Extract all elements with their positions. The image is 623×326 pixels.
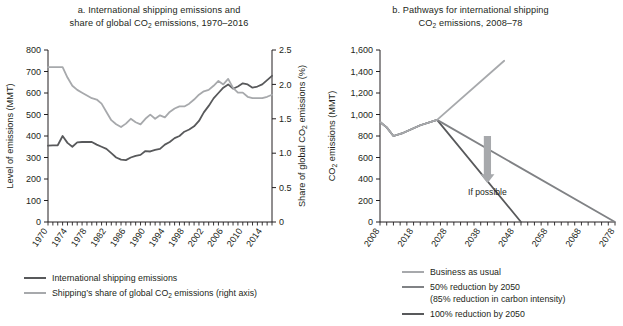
if-possible-arrow-icon [480, 136, 494, 183]
svg-text:400: 400 [26, 131, 41, 141]
legend-item-100-reduction: 100% reduction by 2050 [402, 308, 622, 321]
svg-text:2002: 2002 [186, 226, 206, 248]
svg-text:2028: 2028 [429, 226, 449, 248]
panel-b-plot: 02004006008001,0001,2001,4001,6002008201… [318, 0, 623, 270]
legend-label-100-reduction: 100% reduction by 2050 [430, 308, 525, 321]
svg-text:1.5: 1.5 [279, 114, 292, 124]
svg-text:2010: 2010 [225, 226, 245, 248]
svg-text:600: 600 [26, 88, 41, 98]
legend-swatch-50 [402, 286, 424, 288]
legend-item-intl-shipping-emissions: International shipping emissions [24, 272, 314, 285]
svg-text:2.0: 2.0 [279, 80, 292, 90]
legend-swatch-100 [402, 313, 424, 315]
panel-a-legend: International shipping emissions Shippin… [24, 272, 314, 303]
legend-item-business-as-usual: Business as usual [402, 266, 622, 279]
svg-text:1970: 1970 [30, 226, 50, 248]
svg-text:1,600: 1,600 [350, 45, 373, 55]
svg-text:300: 300 [26, 153, 41, 163]
svg-text:1998: 1998 [166, 226, 186, 248]
panel-b-legend: Business as usual 50% reduction by 2050(… [402, 266, 622, 323]
svg-text:800: 800 [26, 45, 41, 55]
if-possible-label: If possible [468, 187, 507, 197]
legend-label-intl-shipping-emissions: International shipping emissions [52, 272, 177, 285]
svg-text:400: 400 [358, 174, 373, 184]
svg-text:1994: 1994 [147, 226, 167, 248]
svg-text:2068: 2068 [563, 226, 583, 248]
svg-text:0: 0 [368, 217, 373, 227]
panel-b: b. Pathways for international shipping C… [318, 0, 623, 326]
svg-text:Level of emissions (MMT): Level of emissions (MMT) [5, 83, 15, 188]
legend-swatch-bau [402, 271, 424, 273]
svg-text:800: 800 [358, 131, 373, 141]
svg-text:1,400: 1,400 [350, 67, 373, 77]
svg-text:1986: 1986 [108, 226, 128, 248]
svg-text:0: 0 [36, 217, 41, 227]
svg-text:1.0: 1.0 [279, 148, 292, 158]
panel-a: a. International shipping emissions and … [0, 0, 318, 326]
svg-text:0: 0 [279, 217, 284, 227]
svg-text:2014: 2014 [244, 226, 264, 248]
figure-container: a. International shipping emissions and … [0, 0, 623, 326]
svg-text:200: 200 [26, 174, 41, 184]
svg-text:1990: 1990 [127, 226, 147, 248]
legend-label-shipping-share: Shipping’s share of global CO2 emissions… [52, 287, 257, 301]
svg-text:2006: 2006 [205, 226, 225, 248]
legend-swatch-light [24, 292, 46, 294]
svg-text:0.5: 0.5 [279, 183, 292, 193]
svg-text:2038: 2038 [463, 226, 483, 248]
panel-a-plot: 010020030040050060070080000.51.01.52.02.… [0, 0, 318, 270]
svg-text:700: 700 [26, 67, 41, 77]
svg-text:1978: 1978 [69, 226, 89, 248]
legend-item-50-reduction: 50% reduction by 2050(85% reduction in c… [402, 281, 622, 306]
svg-text:1982: 1982 [88, 226, 108, 248]
svg-text:CO2 emissions (MMT): CO2 emissions (MMT) [327, 91, 338, 182]
svg-text:2078: 2078 [597, 226, 617, 248]
svg-text:100: 100 [26, 196, 41, 206]
svg-text:2008: 2008 [362, 226, 382, 248]
svg-text:1974: 1974 [49, 226, 69, 248]
svg-text:200: 200 [358, 196, 373, 206]
svg-text:1,000: 1,000 [350, 110, 373, 120]
legend-label-50-reduction: 50% reduction by 2050(85% reduction in c… [430, 281, 565, 306]
svg-text:500: 500 [26, 110, 41, 120]
svg-text:2048: 2048 [496, 226, 516, 248]
svg-text:Share of global CO2 emissions: Share of global CO2 emissions (%) [297, 65, 308, 207]
svg-text:2018: 2018 [396, 226, 416, 248]
legend-item-shipping-share: Shipping’s share of global CO2 emissions… [24, 287, 314, 301]
legend-label-business-as-usual: Business as usual [430, 266, 501, 279]
svg-text:1,200: 1,200 [350, 88, 373, 98]
svg-text:600: 600 [358, 153, 373, 163]
svg-text:2058: 2058 [530, 226, 550, 248]
svg-text:2.5: 2.5 [279, 45, 292, 55]
legend-swatch-dark [24, 277, 46, 279]
legend-label-50-reduction-sub: (85% reduction in carbon intensity) [430, 293, 565, 306]
